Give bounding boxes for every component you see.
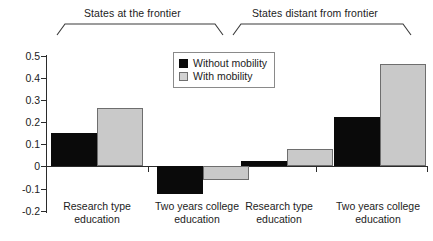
bar-two-years-college-education-without-mobility xyxy=(157,166,203,194)
x-category-label-0-line1: Research type xyxy=(46,200,148,213)
y-tick-label-1: 0.4 xyxy=(6,73,40,84)
chart-legend: Without mobility With mobility xyxy=(173,52,275,88)
legend-item-without-mobility: Without mobility xyxy=(179,57,267,70)
legend-label-without-mobility: Without mobility xyxy=(193,58,267,69)
bar-research-type-education-without-mobility xyxy=(51,133,97,166)
y-tick-label-7: -0.2 xyxy=(6,206,40,217)
bar-two-years-college-education-with-mobility xyxy=(203,166,249,180)
group-title-states-distant-from-frontier: States distant from frontier xyxy=(252,7,378,19)
y-tick-label-3: 0.2 xyxy=(6,117,40,128)
x-category-label-2-line1: Research type xyxy=(228,200,330,213)
group-bracket-left xyxy=(56,22,224,36)
legend-swatch-with-mobility xyxy=(179,72,188,81)
x-axis-tick-3 xyxy=(316,167,317,172)
x-axis-tick-1 xyxy=(148,167,149,172)
x-axis-tick-4 xyxy=(427,167,428,172)
bar-chart-figure: States at the frontier States distant fr… xyxy=(0,0,433,241)
x-category-label-3: Two years college education xyxy=(325,200,431,226)
y-tick-label-5: 0 xyxy=(6,161,40,172)
legend-label-with-mobility: With mobility xyxy=(193,71,253,82)
x-category-label-0: Research type education xyxy=(46,200,148,226)
bar-distant-research-type-education-with-mobility xyxy=(287,149,333,166)
legend-item-with-mobility: With mobility xyxy=(179,70,267,83)
y-tick-label-6: -0.1 xyxy=(6,184,40,195)
x-category-label-2-line2: education xyxy=(228,213,330,226)
y-tick-label-2: 0.3 xyxy=(6,95,40,106)
y-tick-label-0: 0.5 xyxy=(6,51,40,62)
x-category-label-2: Research type education xyxy=(228,200,330,226)
bar-distant-two-years-college-education-without-mobility xyxy=(334,117,380,166)
bar-distant-two-years-college-education-with-mobility xyxy=(380,64,426,166)
y-tick-label-4: 0.1 xyxy=(6,139,40,150)
y-axis-line xyxy=(46,55,47,213)
group-title-states-at-frontier: States at the frontier xyxy=(84,7,181,19)
bar-distant-research-type-education-without-mobility xyxy=(241,161,287,167)
y-axis-labels: 0.5 0.4 0.3 0.2 0.1 0 -0.1 -0.2 xyxy=(0,0,40,241)
group-bracket-right xyxy=(232,22,412,36)
bar-research-type-education-with-mobility xyxy=(97,108,143,166)
x-category-label-0-line2: education xyxy=(46,213,148,226)
x-category-label-3-line1: Two years college xyxy=(325,200,431,213)
x-category-label-3-line2: education xyxy=(325,213,431,226)
legend-swatch-without-mobility xyxy=(179,59,188,68)
